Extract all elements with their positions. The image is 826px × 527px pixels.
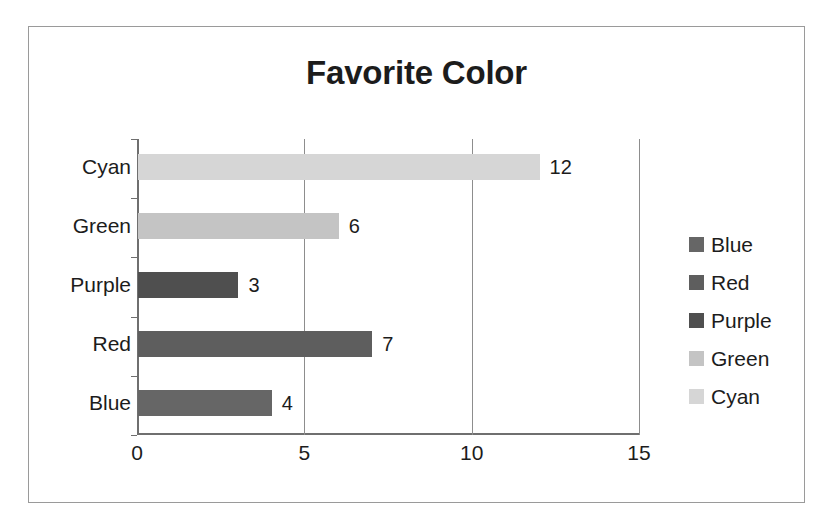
bar-red	[138, 331, 372, 357]
y-axis-category-labels: CyanGreenPurpleRedBlue	[35, 139, 131, 435]
bar-value-label-green: 6	[349, 213, 360, 239]
gridline-15	[639, 139, 640, 435]
y-axis-label-blue: Blue	[39, 390, 131, 416]
chart-title: Favorite Color	[29, 55, 804, 91]
x-axis-tick-labels: 051015	[137, 441, 639, 473]
y-axis-label-purple: Purple	[39, 272, 131, 298]
legend-label: Purple	[711, 310, 772, 331]
x-tick-label-5: 5	[298, 441, 310, 465]
y-axis-label-red: Red	[39, 331, 131, 357]
legend-item-purple[interactable]: Purple	[689, 301, 799, 339]
gridline-10	[472, 139, 473, 435]
y-axis-tick	[131, 257, 137, 258]
bar-green	[138, 213, 339, 239]
bar-value-label-blue: 4	[282, 390, 293, 416]
y-axis-tick	[131, 139, 137, 140]
legend-item-cyan[interactable]: Cyan	[689, 377, 799, 415]
legend-item-green[interactable]: Green	[689, 339, 799, 377]
legend-swatch-cyan-icon	[689, 389, 704, 404]
legend-swatch-red-icon	[689, 275, 704, 290]
x-tick-label-0: 0	[131, 441, 143, 465]
gridline-5	[304, 139, 305, 435]
legend-label: Green	[711, 348, 769, 369]
chart-legend: BlueRedPurpleGreenCyan	[689, 225, 799, 415]
x-axis-line	[137, 433, 639, 435]
bar-cyan	[138, 154, 540, 180]
legend-item-blue[interactable]: Blue	[689, 225, 799, 263]
x-tick-label-10: 10	[460, 441, 483, 465]
legend-item-red[interactable]: Red	[689, 263, 799, 301]
bar-value-label-purple: 3	[248, 272, 259, 298]
legend-label: Red	[711, 272, 750, 293]
legend-swatch-purple-icon	[689, 313, 704, 328]
bar-blue	[138, 390, 272, 416]
y-axis-label-cyan: Cyan	[39, 154, 131, 180]
y-axis-tick	[131, 376, 137, 377]
bar-value-label-cyan: 12	[550, 154, 572, 180]
x-tick-label-15: 15	[627, 441, 650, 465]
y-axis-tick	[131, 435, 137, 436]
legend-swatch-blue-icon	[689, 237, 704, 252]
y-axis-label-green: Green	[39, 213, 131, 239]
y-axis-tick	[131, 198, 137, 199]
y-axis-tick	[131, 317, 137, 318]
chart-frame: Favorite Color CyanGreenPurpleRedBlue 12…	[28, 26, 805, 503]
legend-label: Cyan	[711, 386, 760, 407]
bar-purple	[138, 272, 238, 298]
plot-area: 126374	[137, 139, 639, 435]
legend-label: Blue	[711, 234, 753, 255]
legend-swatch-green-icon	[689, 351, 704, 366]
bar-value-label-red: 7	[382, 331, 393, 357]
